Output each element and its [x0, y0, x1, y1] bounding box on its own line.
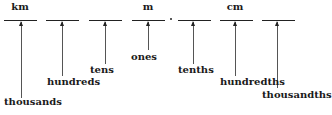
place-label-tenths: tenths [178, 64, 214, 75]
unit-label-km: km [11, 1, 29, 12]
place-label-hundredths: hundredths [220, 76, 285, 87]
place-label-tens: tens [90, 64, 114, 75]
arrow-icon [62, 22, 63, 76]
unit-label-cm: cm [227, 1, 244, 12]
place-label-hundreds: hundreds [47, 76, 100, 87]
place-label-thousands: thousands [4, 96, 62, 107]
arrow-icon [105, 22, 106, 64]
arrow-icon [193, 22, 194, 64]
decimal-point [170, 18, 172, 20]
arrow-icon [148, 22, 149, 50]
place-label-ones: ones [131, 51, 157, 62]
arrow-icon [235, 22, 236, 76]
unit-label-m: m [143, 1, 154, 12]
place-label-thousandths: thousandths [262, 89, 332, 100]
arrow-icon [21, 22, 22, 98]
